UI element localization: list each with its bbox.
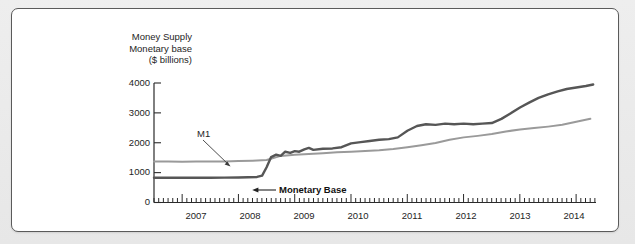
x-tick-marks [154, 194, 595, 203]
figure-canvas: Money Supply Monetary base ($ billions) … [0, 0, 635, 244]
y-tick-marks [154, 83, 161, 203]
series-line-monetary-base [154, 84, 593, 177]
chart-frame: Money Supply Monetary base ($ billions) … [11, 8, 619, 232]
m1-leader-arrow [203, 140, 231, 167]
axis-lines [154, 83, 596, 203]
plot-area [12, 9, 618, 231]
monetary-base-leader-arrow [252, 188, 276, 193]
